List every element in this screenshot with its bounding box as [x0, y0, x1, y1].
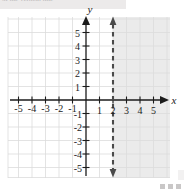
- decorative-squares: [160, 184, 181, 189]
- y-tick-label: 5: [75, 28, 80, 39]
- y-tick-label: 3: [75, 55, 80, 66]
- y-tick-label: -3: [74, 136, 82, 147]
- x-tick-label: -4: [28, 103, 36, 114]
- y-tick-label: -5: [74, 163, 82, 174]
- y-tick-label: -2: [74, 122, 82, 133]
- coordinate-plane-graph: -5 -4 -3 -2 -1 1 2 3 4 5 5 4 3 2 1 -1 -2…: [0, 0, 184, 194]
- y-tick-label: 1: [75, 82, 80, 93]
- x-tick-label: 5: [151, 105, 156, 116]
- x-tick-label: -2: [55, 103, 63, 114]
- x-tick-label: 4: [138, 105, 143, 116]
- square-icon: [176, 184, 181, 189]
- x-tick-label: -3: [41, 103, 49, 114]
- y-tick-label: 4: [75, 41, 80, 52]
- y-tick-label: -4: [74, 149, 82, 160]
- x-tick-label: -5: [14, 103, 22, 114]
- square-icon: [168, 184, 173, 189]
- edge-artifact: [178, 170, 184, 180]
- x-tick-label: 1: [97, 105, 102, 116]
- y-axis-label: y: [87, 3, 93, 15]
- y-tick-label: 2: [75, 68, 80, 79]
- y-axis: [82, 16, 90, 176]
- y-tick-label: -1: [74, 109, 82, 120]
- figure-container: of the vertical line: [0, 0, 184, 194]
- x-axis-label: x: [171, 94, 177, 106]
- x-tick-label: 3: [124, 105, 129, 116]
- square-icon: [160, 184, 165, 189]
- x-tick-label: 2: [111, 105, 116, 116]
